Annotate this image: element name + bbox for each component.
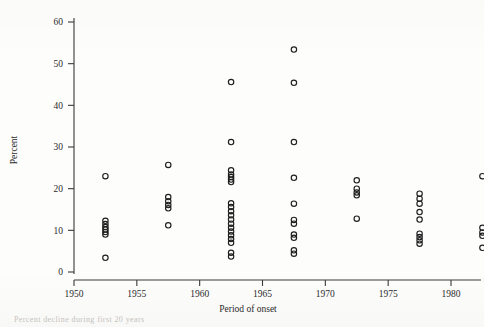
y-tick-label: 20 [54,184,64,194]
y-tick-label: 60 [54,17,64,27]
y-axis-ticks: 0102030405060 [54,17,75,277]
data-point [166,162,171,167]
data-point [354,178,359,183]
y-tick-label: 50 [54,59,64,69]
data-point [228,79,233,84]
data-point [480,233,484,238]
data-point [228,240,233,245]
x-tick-label: 1950 [65,289,84,299]
data-point [291,221,296,226]
page-caption-fragment: Percent decline during first 20 years [0,313,484,327]
data-point [291,235,296,240]
data-point [291,80,296,85]
data-point [291,139,296,144]
x-tick-label: 1965 [253,289,272,299]
data-point [228,139,233,144]
data-point [417,217,422,222]
data-point [166,223,171,228]
y-axis-title: Percent [9,135,19,164]
data-point [480,245,484,250]
data-point [291,175,296,180]
x-axis-ticks: 1950195519601965197019751980 [65,280,461,299]
data-point [228,254,233,259]
x-tick-label: 1980 [442,289,461,299]
data-point [417,209,422,214]
data-point [103,173,108,178]
plot-canvas: 0102030405060 19501955196019651970197519… [0,0,484,327]
y-tick-label: 40 [54,101,64,111]
y-tick-label: 0 [58,267,63,277]
x-tick-label: 1970 [316,289,335,299]
data-point [417,241,422,246]
data-point [103,255,108,260]
x-tick-label: 1955 [127,289,146,299]
data-point-group [103,47,484,261]
x-tick-label: 1960 [190,289,209,299]
data-point [291,201,296,206]
scatter-plot-figure: 0102030405060 19501955196019651970197519… [0,0,484,327]
y-tick-label: 10 [54,226,64,236]
data-point [354,216,359,221]
data-point [166,206,171,211]
x-tick-label: 1975 [379,289,398,299]
y-tick-label: 30 [54,142,64,152]
data-point [480,173,484,178]
data-point [291,47,296,52]
data-point [291,251,296,256]
